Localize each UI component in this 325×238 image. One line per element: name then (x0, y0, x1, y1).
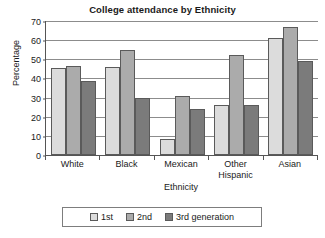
y-axis-title: Percentage (11, 23, 21, 103)
y-tick-label: 70 (31, 17, 41, 27)
chart-title: College attendance by Ethnicity (0, 4, 325, 15)
y-tick-label: 30 (31, 94, 41, 104)
plot-area: 010203040506070 (45, 21, 318, 155)
legend-item: 1st (90, 212, 113, 222)
x-tick-mark (317, 155, 318, 160)
bar (120, 50, 135, 155)
bar-group (264, 21, 318, 155)
bar (229, 55, 244, 155)
bar (298, 61, 313, 155)
x-axis-title: Ethnicity (45, 182, 317, 192)
y-tick-label: 0 (36, 151, 41, 161)
bar (135, 98, 150, 155)
y-tick-label: 10 (31, 132, 41, 142)
chart-figure: College attendance by Ethnicity Percenta… (0, 0, 325, 238)
bar (66, 66, 81, 155)
bar (175, 96, 190, 155)
y-tick-label: 60 (31, 36, 41, 46)
bar (214, 105, 229, 155)
bar-group (209, 21, 263, 155)
x-tick-label: White (45, 159, 99, 180)
chart-legend: 1st2nd3rd generation (62, 207, 262, 227)
x-tick-label: Asian (263, 159, 317, 180)
x-axis-labels: WhiteBlackMexicanOther HispanicAsian (45, 159, 317, 180)
y-tick-label: 50 (31, 55, 41, 65)
x-tick-label: Other Hispanic (208, 159, 262, 180)
legend-label: 3rd generation (176, 212, 234, 222)
y-tick-label: 40 (31, 74, 41, 84)
bar (283, 27, 298, 155)
bar (190, 109, 205, 155)
bar (160, 139, 175, 155)
x-tick-label: Mexican (154, 159, 208, 180)
legend-label: 2nd (137, 212, 152, 222)
bar (244, 105, 259, 155)
bar (105, 67, 120, 155)
bar (51, 68, 66, 155)
legend-label: 1st (101, 212, 113, 222)
legend-swatch (165, 213, 173, 221)
bar (81, 81, 96, 155)
x-tick-label: Black (99, 159, 153, 180)
bar (268, 38, 283, 155)
legend-swatch (90, 213, 98, 221)
legend-item: 2nd (126, 212, 152, 222)
y-tick-label: 20 (31, 113, 41, 123)
bar-groups (46, 21, 318, 155)
bar-group (46, 21, 100, 155)
legend-swatch (126, 213, 134, 221)
legend-item: 3rd generation (165, 212, 234, 222)
bar-group (155, 21, 209, 155)
bar-group (100, 21, 154, 155)
